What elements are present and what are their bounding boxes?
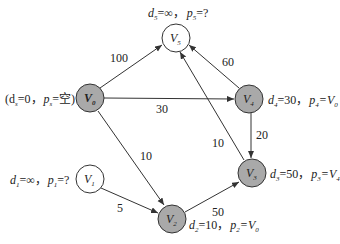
graph-canvas: 100 30 10 60 20 10 5 50 V5 V0 V4 V1 V3 V… <box>0 0 340 244</box>
node-v4: V4 <box>235 85 263 113</box>
weight-v0-v4: 30 <box>156 102 168 116</box>
node-v1: V1 <box>76 165 104 193</box>
annotation-v4: d4=30，p4=V0 <box>268 93 338 109</box>
annotation-v5: d5=∞，p5=? <box>148 6 208 22</box>
annotation-v0: (ds=0，ps=空) <box>5 92 75 108</box>
annotation-v3: d3=50，p3=V4 <box>270 167 340 183</box>
weight-v3-v5: 10 <box>212 136 224 150</box>
weight-v4-v3: 20 <box>256 128 268 142</box>
node-v3: V3 <box>238 159 266 187</box>
weight-v0-v2: 10 <box>140 149 152 163</box>
annotation-v2: d2=10，p2=V0 <box>189 218 259 234</box>
weight-v2-v3: 50 <box>212 205 224 219</box>
edges <box>98 45 251 213</box>
edge-v1-v2 <box>101 188 158 213</box>
annotation-v1: d1=∞，p1=? <box>10 173 69 189</box>
node-v5: V5 <box>162 24 190 52</box>
weight-v1-v2: 5 <box>117 201 123 215</box>
edge-weights: 100 30 10 60 20 10 5 50 <box>110 51 268 219</box>
node-v0: V0 <box>76 84 104 112</box>
weight-v0-v5: 100 <box>110 51 128 65</box>
weight-v4-v5: 60 <box>222 55 234 69</box>
edge-v0-v4 <box>104 98 234 99</box>
node-v2: V2 <box>158 205 186 233</box>
